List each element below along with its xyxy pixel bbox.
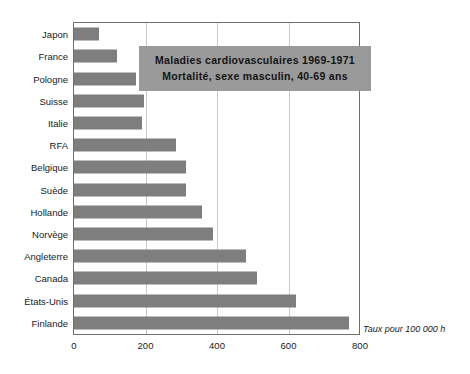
bar [74,116,142,129]
bar [74,72,136,85]
bar [74,316,349,329]
y-axis-tick-label: Belgique [31,162,68,173]
bar-row [74,112,360,134]
bar-row [74,312,360,334]
bar-row [74,223,360,245]
x-axis-tick-label: 400 [209,340,225,351]
bar-row [74,134,360,156]
y-axis-tick-label: Suisse [39,95,68,106]
x-axis-tick-label: 600 [281,340,297,351]
bar-row [74,90,360,112]
y-axis-tick-label: Hollande [31,206,69,217]
bar [74,205,202,218]
bar-row [74,156,360,178]
x-axis-tick-label: 200 [138,340,154,351]
y-axis-tick-label: Angleterre [24,251,68,262]
y-axis-tick-label: Japon [42,29,68,40]
bar-row [74,178,360,200]
bar [74,227,213,240]
x-axis-labels: 0200400600800 [0,340,470,356]
chart-subtitle: Mortalité, sexe masculin, 40-69 ans [162,70,348,83]
bar-row [74,289,360,311]
bar [74,183,186,196]
unit-note: Taux pour 100 000 h [363,324,445,334]
y-axis-labels: JaponFrancePologneSuisseItalieRFABelgiqu… [0,23,68,334]
x-axis-tick-label: 0 [71,340,76,351]
y-axis-tick-label: Canada [35,273,68,284]
y-axis-tick-label: RFA [50,140,68,151]
y-axis-tick-label: Norvège [32,229,68,240]
bar-row [74,245,360,267]
bar [74,250,246,263]
bar [74,28,99,41]
y-axis-tick-label: Pologne [33,73,68,84]
bar [74,161,186,174]
y-axis-tick-label: Finlande [32,317,68,328]
chart-title-banner: Maladies cardiovasculaires 1969-1971 Mor… [139,46,371,91]
bar [74,94,144,107]
y-axis-tick-label: Italie [48,117,68,128]
bar-chart: JaponFrancePologneSuisseItalieRFABelgiqu… [0,0,470,374]
bar [74,139,176,152]
x-axis-tick-label: 800 [352,340,368,351]
y-axis-tick-label: États-Unis [24,295,68,306]
bar [74,50,117,63]
bar [74,294,296,307]
bar-row [74,23,360,45]
y-axis-tick-label: Suède [41,184,68,195]
chart-title: Maladies cardiovasculaires 1969-1971 [155,54,355,67]
y-axis-tick-label: France [38,51,68,62]
bar-row [74,201,360,223]
bar [74,272,257,285]
bar-row [74,267,360,289]
